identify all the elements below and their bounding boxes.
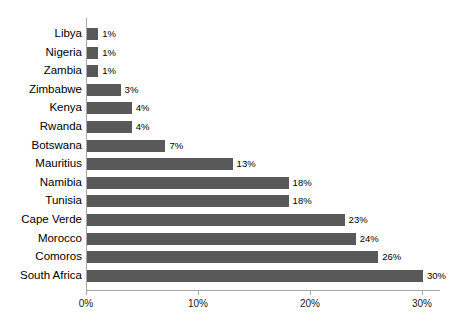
bar-row: South Africa30% (0, 270, 456, 282)
category-label: Libya (55, 26, 83, 41)
bar (87, 270, 423, 282)
category-label: Kenya (49, 100, 82, 115)
category-label: Rwanda (40, 119, 82, 134)
bar-row: Comoros26% (0, 251, 456, 263)
bar-value-label: 4% (136, 120, 150, 133)
x-axis-tick (310, 290, 311, 295)
bar-chart: 0%10%20%30% Libya1%Nigeria1%Zambia1%Zimb… (0, 0, 456, 322)
bar-value-label: 1% (102, 46, 116, 59)
category-label: Zambia (44, 63, 82, 78)
category-label: Nigeria (46, 45, 82, 60)
bar-value-label: 13% (237, 157, 256, 170)
bar-value-label: 18% (293, 176, 312, 189)
bar (87, 195, 289, 207)
bar-row: Morocco24% (0, 233, 456, 245)
bar-row: Zambia1% (0, 65, 456, 77)
y-axis-line (86, 18, 87, 290)
bar (87, 177, 289, 189)
bar (87, 84, 121, 96)
bar-row: Rwanda4% (0, 121, 456, 133)
bar (87, 233, 356, 245)
category-label: Morocco (38, 231, 82, 246)
bar-row: Mauritius13% (0, 158, 456, 170)
x-axis-tick (422, 290, 423, 295)
bar (87, 47, 98, 59)
category-label: Tunisia (45, 193, 82, 208)
bar-row: Nigeria1% (0, 47, 456, 59)
category-label: Mauritius (35, 156, 82, 171)
bar-row: Tunisia18% (0, 195, 456, 207)
bar-value-label: 23% (349, 213, 368, 226)
x-axis-tick-label: 20% (300, 298, 320, 309)
bar-value-label: 4% (136, 101, 150, 114)
bar-row: Zimbabwe3% (0, 84, 456, 96)
bar-value-label: 1% (102, 64, 116, 77)
bar-value-label: 18% (293, 194, 312, 207)
bar-row: Libya1% (0, 28, 456, 40)
bar-value-label: 3% (125, 83, 139, 96)
bar-value-label: 1% (102, 27, 116, 40)
bar-row: Cape Verde23% (0, 214, 456, 226)
x-axis-tick (198, 290, 199, 295)
bar-value-label: 26% (382, 250, 401, 263)
category-label: Namibia (40, 175, 82, 190)
x-axis-tick-label: 10% (188, 298, 208, 309)
x-axis-tick-label: 0% (79, 298, 93, 309)
bar-value-label: 30% (427, 269, 446, 282)
bar (87, 251, 378, 263)
bar (87, 102, 132, 114)
bar-row: Kenya4% (0, 102, 456, 114)
bar (87, 121, 132, 133)
category-label: South Africa (20, 268, 82, 283)
category-label: Botswana (31, 138, 82, 153)
x-axis-line (86, 290, 440, 291)
bar-value-label: 24% (360, 232, 379, 245)
category-label: Comoros (35, 249, 82, 264)
bar-row: Botswana7% (0, 140, 456, 152)
bar-value-label: 7% (169, 139, 183, 152)
x-axis-tick-label: 30% (412, 298, 432, 309)
bar-row: Namibia18% (0, 177, 456, 189)
x-axis-tick (86, 290, 87, 295)
bar (87, 140, 165, 152)
category-label: Cape Verde (21, 212, 82, 227)
bar (87, 158, 233, 170)
category-label: Zimbabwe (29, 82, 82, 97)
bar (87, 28, 98, 40)
bar (87, 65, 98, 77)
bar (87, 214, 345, 226)
